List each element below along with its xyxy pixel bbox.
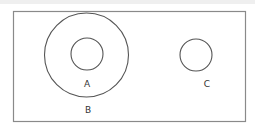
- set-c-circle: [180, 39, 212, 71]
- set-b-label: B: [85, 105, 91, 115]
- venn-diagram: A B C: [0, 0, 255, 128]
- set-a-label: A: [84, 79, 91, 89]
- set-a-circle: [71, 38, 103, 70]
- set-c-label: C: [204, 79, 210, 89]
- universal-set-rectangle: [14, 12, 246, 122]
